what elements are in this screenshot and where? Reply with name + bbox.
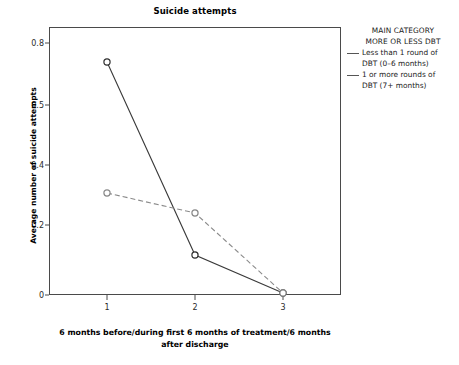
legend-label-line1: Less than 1 round of	[362, 48, 457, 59]
y-tick-label-3: 0.2	[10, 221, 44, 230]
legend: MAIN CATEGORY MORE OR LESS DBT Less than…	[349, 26, 457, 91]
x-tick-label-3: 3	[268, 303, 298, 312]
legend-label-line1: 1 or more rounds of	[362, 70, 457, 81]
y-tick-label-0: 0.8	[10, 39, 44, 48]
x-axis-title-line1: 6 months before/during first 6 months of…	[59, 328, 330, 337]
x-tick-label-2: 2	[180, 303, 210, 312]
y-tick-label-4: 0	[10, 291, 44, 300]
x-tick-label-1: 1	[92, 303, 122, 312]
legend-label-line2: DBT (0–6 months)	[362, 59, 457, 70]
y-tick-label-1: 0.5	[10, 101, 44, 110]
y-axis-title: Average number of suicide attempts	[29, 71, 38, 261]
legend-line-icon-solid	[347, 53, 359, 54]
chart-title: Suicide attempts	[49, 6, 341, 16]
legend-label-line2: DBT (7+ months)	[362, 81, 457, 92]
chart-root: Suicide attempts 0.8 0.5 0.4 0.2 0 1 2 3…	[0, 0, 459, 365]
x-axis-title: 6 months before/during first 6 months of…	[49, 327, 341, 351]
legend-title-line2: MORE OR LESS DBT	[349, 37, 457, 48]
x-tick-marks	[107, 295, 283, 300]
plot-area	[49, 27, 341, 295]
y-tick-label-2: 0.4	[10, 161, 44, 170]
legend-entry-1-or-more-rounds[interactable]: 1 or more rounds of DBT (7+ months)	[349, 70, 457, 91]
legend-title-line1: MAIN CATEGORY	[349, 26, 457, 37]
legend-line-icon-dashed	[347, 75, 359, 76]
legend-entry-less-than-1-round[interactable]: Less than 1 round of DBT (0–6 months)	[349, 48, 457, 69]
x-axis-title-line2: after discharge	[161, 340, 228, 349]
